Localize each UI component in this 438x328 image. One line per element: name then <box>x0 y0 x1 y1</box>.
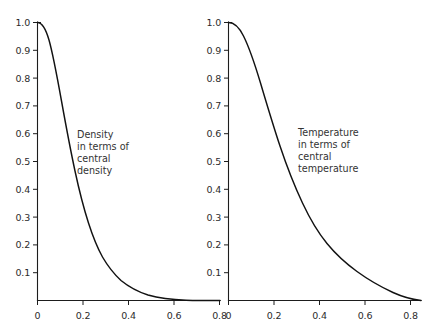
left-y-tick-label: 0.8 <box>15 73 30 84</box>
left-y-tick-label: 0.6 <box>15 128 30 139</box>
left-y-tick-label: 0.7 <box>15 100 30 111</box>
left-y-tick-label: 0.4 <box>15 184 30 195</box>
temperature-annotation-line: temperature <box>298 163 358 174</box>
left-x-tick-label: 0 <box>35 310 41 321</box>
left-y-tick-label: 1.0 <box>15 17 30 28</box>
right-y-tick-label: 0.5 <box>206 156 221 167</box>
figure-canvas: 1.0 0.9 0.8 0.7 0.6 0.5 0.4 0.3 0.2 0.1 <box>0 0 438 328</box>
temperature-annotation-line: Temperature <box>297 127 359 138</box>
right-y-tick-label: 0.1 <box>206 267 221 278</box>
left-y-tick-label: 0.3 <box>15 212 30 223</box>
right-x-tick-label: 0.6 <box>358 310 373 321</box>
density-annotation-line: density <box>77 165 112 176</box>
right-x-tick-label: 0.8 <box>403 310 418 321</box>
right-y-tick-label: 0.2 <box>206 239 221 250</box>
temperature-annotation-line: central <box>298 151 332 162</box>
right-y-tick-label: 0.7 <box>206 100 221 111</box>
left-y-tick-label: 0.2 <box>15 239 30 250</box>
stellar-structure-figure: 1.0 0.9 0.8 0.7 0.6 0.5 0.4 0.3 0.2 0.1 <box>0 0 438 328</box>
density-annotation-line: in terms of <box>77 141 129 152</box>
density-annotation-line: central <box>77 153 111 164</box>
temperature-annotation-line: in terms of <box>298 139 350 150</box>
density-annotation-line: Density <box>77 129 114 140</box>
right-x-tick-label: 0 <box>226 310 232 321</box>
left-y-tick-label: 0.5 <box>15 156 30 167</box>
right-y-tick-label: 0.3 <box>206 212 221 223</box>
right-y-tick-label: 0.6 <box>206 128 221 139</box>
right-y-tick-label: 0.4 <box>206 184 221 195</box>
left-x-tick-label: 0.6 <box>167 310 182 321</box>
right-x-tick-label: 0.2 <box>267 310 282 321</box>
right-y-tick-label: 0.9 <box>206 45 221 56</box>
right-x-tick-label: 0.4 <box>312 310 327 321</box>
left-x-tick-label: 0.2 <box>76 310 91 321</box>
left-x-tick-label: 0.4 <box>121 310 136 321</box>
right-y-tick-label: 1.0 <box>206 17 221 28</box>
right-y-tick-label: 0.8 <box>206 73 221 84</box>
left-y-tick-label: 0.1 <box>15 267 30 278</box>
left-y-tick-label: 0.9 <box>15 45 30 56</box>
